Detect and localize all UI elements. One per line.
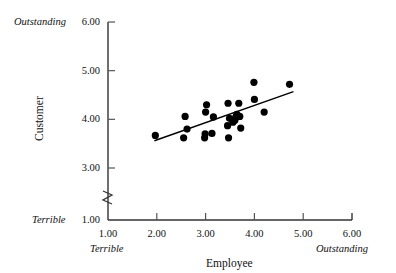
- x-axis-anchor-high: Outstanding: [316, 244, 368, 255]
- y-tick-label: 3.00: [66, 163, 100, 174]
- data-point: [261, 108, 268, 115]
- data-point: [225, 134, 232, 141]
- data-point: [236, 113, 243, 120]
- y-axis-title: Customer: [34, 96, 46, 141]
- y-axis-break-icon: [103, 191, 112, 204]
- data-point: [182, 113, 189, 120]
- data-point: [250, 79, 257, 86]
- x-axis-title: Employee: [206, 258, 253, 270]
- y-tick-label: 5.00: [66, 66, 100, 77]
- x-axis-anchor-low: Terrible: [90, 244, 123, 255]
- x-tick-label: 6.00: [336, 229, 368, 240]
- data-point: [180, 134, 187, 141]
- x-tick-label: 5.00: [287, 229, 319, 240]
- data-point: [208, 130, 215, 137]
- data-point: [286, 81, 293, 88]
- data-point: [251, 96, 258, 103]
- y-axis-anchor-high: Outstanding: [14, 17, 66, 28]
- data-point: [202, 130, 209, 137]
- data-point: [152, 132, 159, 139]
- y-axis-anchor-low: Terrible: [32, 215, 65, 226]
- scatter-plot-figure: 1.003.004.005.006.00 1.002.003.004.005.0…: [0, 0, 396, 273]
- data-point: [202, 108, 209, 115]
- x-tick-label: 2.00: [141, 229, 173, 240]
- data-point: [237, 124, 244, 131]
- data-point: [235, 100, 242, 107]
- data-point: [224, 100, 231, 107]
- data-point: [183, 125, 190, 132]
- y-tick-label: 1.00: [66, 215, 100, 226]
- data-point: [210, 113, 217, 120]
- y-tick-label: 4.00: [66, 114, 100, 125]
- data-point: [203, 101, 210, 108]
- x-tick-label: 4.00: [238, 229, 270, 240]
- trend-line: [154, 92, 293, 141]
- x-tick-label: 3.00: [190, 229, 222, 240]
- data-points-group: [152, 79, 293, 142]
- y-tick-label: 6.00: [66, 17, 100, 28]
- x-tick-label: 1.00: [92, 229, 124, 240]
